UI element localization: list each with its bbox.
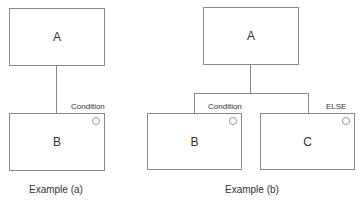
caption-example-b: Example (b): [225, 184, 279, 195]
box-label: A: [204, 29, 298, 43]
box-b-example-a: B: [9, 113, 105, 171]
box-a-example-a: A: [9, 8, 105, 66]
box-a-example-b: A: [203, 7, 299, 65]
else-label: ELSE: [326, 102, 346, 111]
box-label: B: [148, 135, 241, 149]
connector-line: [56, 65, 57, 113]
box-label: A: [10, 30, 104, 44]
condition-label: Condition: [208, 102, 242, 111]
condition-label: Condition: [71, 102, 105, 111]
connector-right-drop: [308, 93, 309, 113]
box-label: B: [10, 135, 104, 149]
connector-stem: [250, 65, 251, 93]
connector-left-drop: [194, 93, 195, 113]
circle-icon: [229, 117, 237, 125]
box-b-example-b: B: [147, 113, 242, 170]
box-label: C: [261, 135, 354, 149]
connector-horizontal: [194, 93, 309, 94]
caption-example-a: Example (a): [29, 184, 83, 195]
circle-icon: [92, 117, 100, 125]
circle-icon: [342, 117, 350, 125]
box-c-example-b: C: [260, 113, 355, 170]
